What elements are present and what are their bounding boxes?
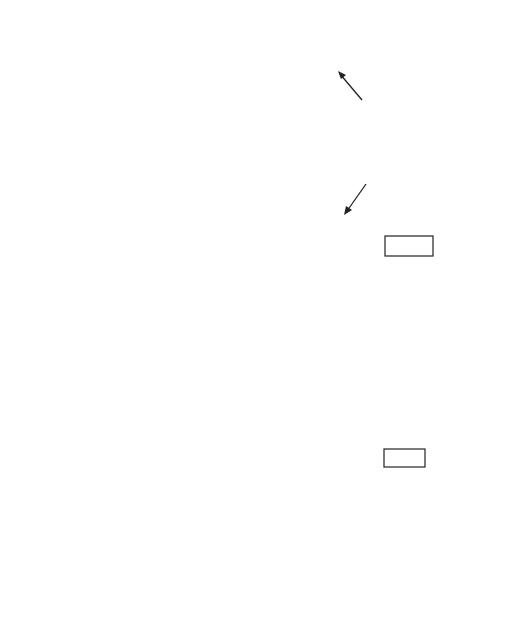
student-arrowhead-icon: [344, 206, 352, 215]
dyad-c-box: [385, 236, 433, 256]
teacher-arrow-icon: [340, 74, 362, 100]
student-arrow-icon: [347, 184, 366, 211]
dyad-d-box: [384, 449, 425, 467]
multiple-baseline-chart: [0, 0, 509, 636]
teacher-arrowhead-icon: [338, 71, 346, 79]
